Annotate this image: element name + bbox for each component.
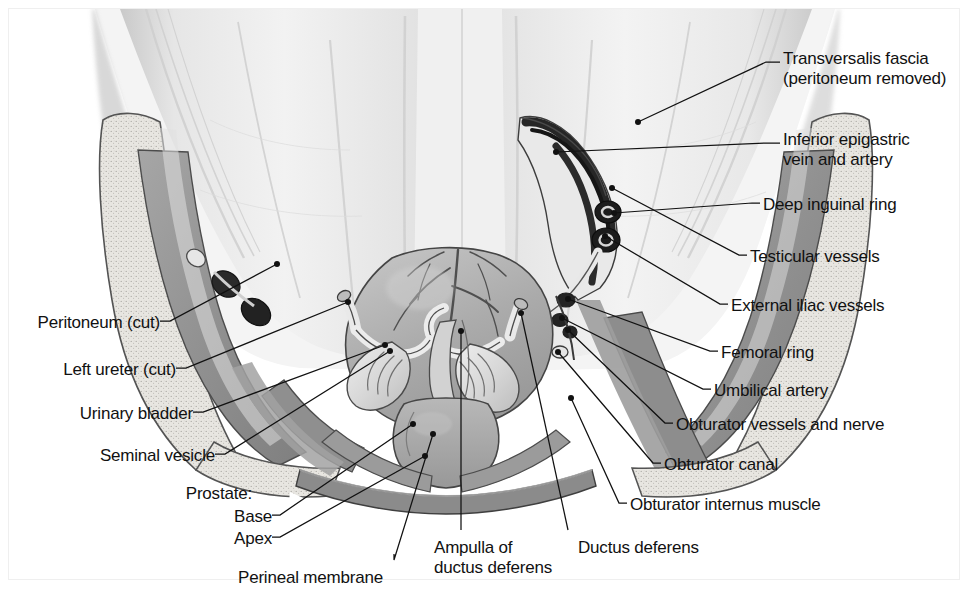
label-perineal-membrane: Perineal membrane bbox=[238, 568, 383, 588]
label-ampulla-of-ductus-deferens: Ampulla ofductus deferens bbox=[434, 538, 552, 578]
label-left-ureter-cut: Left ureter (cut) bbox=[26, 360, 176, 380]
label-external-iliac-vessels: External iliac vessels bbox=[731, 296, 884, 316]
label-urinary-bladder: Urinary bladder bbox=[43, 404, 193, 424]
label-inferior-epigastric: Inferior epigastricvein and artery bbox=[783, 130, 910, 170]
label-obturator-canal: Obturator canal bbox=[664, 455, 778, 475]
label-transversalis-fascia: Transversalis fascia(peritoneum removed) bbox=[783, 49, 946, 89]
label-prostate-apex: Apex bbox=[192, 529, 272, 549]
label-prostate: Prostate: bbox=[152, 484, 252, 504]
anatomy-figure: Transversalis fascia(peritoneum removed)… bbox=[0, 0, 972, 609]
label-umbilical-artery: Umbilical artery bbox=[714, 381, 828, 401]
label-peritoneum-cut: Peritoneum (cut) bbox=[10, 313, 160, 333]
label-obturator-internus-muscle: Obturator internus muscle bbox=[630, 495, 821, 515]
label-prostate-base: Base bbox=[192, 507, 272, 527]
label-testicular-vessels: Testicular vessels bbox=[750, 247, 880, 267]
label-obturator-vessels-and-nerve: Obturator vessels and nerve bbox=[676, 415, 884, 435]
label-ductus-deferens: Ductus deferens bbox=[578, 538, 699, 558]
label-femoral-ring: Femoral ring bbox=[721, 343, 814, 363]
label-seminal-vesicle: Seminal vesicle bbox=[65, 446, 215, 466]
label-deep-inguinal-ring: Deep inguinal ring bbox=[763, 195, 896, 215]
